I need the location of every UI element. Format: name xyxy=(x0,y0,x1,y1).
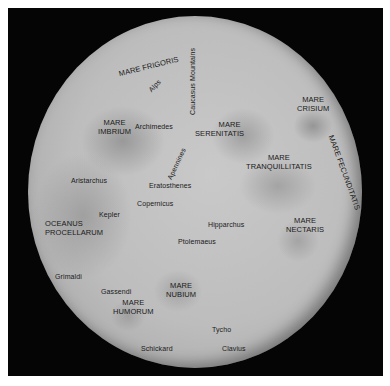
label-aristarchus: Aristarchus xyxy=(71,177,107,185)
mare-humorum-line-1: MARE xyxy=(113,298,154,307)
mare-serenitatis-line-1: MARE xyxy=(195,120,244,129)
mare-serenitatis-line-2: SERENITATIS xyxy=(195,129,244,138)
label-mare-serenitatis: MARE SERENITATIS xyxy=(195,120,244,138)
label-tycho: Tycho xyxy=(212,326,231,334)
label-caucasus-mountains: Caucasus Mountains xyxy=(189,85,197,115)
label-mare-imbrium: MARE IMBRIUM xyxy=(98,118,131,136)
label-hipparchus: Hipparchus xyxy=(208,221,244,229)
mare-imbrium-line-2: IMBRIUM xyxy=(98,127,131,136)
mare-crisium-line-1: MARE xyxy=(297,95,329,104)
mare-imbrium-line-1: MARE xyxy=(98,118,131,127)
oceanus-line-2: PROCELLARUM xyxy=(45,228,103,237)
label-grimaldi: Grimaldi xyxy=(55,273,82,281)
mare-nectaris-line-2: NECTARIS xyxy=(286,225,324,234)
mare-nectaris-line-1: MARE xyxy=(286,216,324,225)
mare-tranquillitatis-line-1: MARE xyxy=(246,153,312,162)
label-mare-nubium: MARE NUBIUM xyxy=(166,281,196,299)
label-clavius: Clavius xyxy=(222,345,246,353)
label-kepler: Kepler xyxy=(99,211,120,219)
mare-humorum-line-2: HUMORUM xyxy=(113,307,154,316)
mare-nubium-line-2: NUBIUM xyxy=(166,290,196,299)
label-ptolemaeus: Ptolemaeus xyxy=(178,238,216,246)
label-eratosthenes: Eratosthenes xyxy=(149,182,191,190)
label-schickard: Schickard xyxy=(141,345,173,353)
label-mare-tranquillitatis: MARE TRANQUILLITATIS xyxy=(246,153,312,171)
mare-tranquillitatis-line-2: TRANQUILLITATIS xyxy=(246,162,312,171)
mare-nubium-line-1: MARE xyxy=(166,281,196,290)
mare-crisium-line-2: CRISIUM xyxy=(297,104,329,113)
oceanus-line-1: OCEANUS xyxy=(45,219,103,228)
label-mare-nectaris: MARE NECTARIS xyxy=(286,216,324,234)
label-oceanus-procellarum: OCEANUS PROCELLARUM xyxy=(45,219,103,237)
label-gassendi: Gassendi xyxy=(101,288,131,296)
label-archimedes: Archimedes xyxy=(135,123,173,131)
caucasus-line-1: Caucasus Mountains xyxy=(189,85,197,115)
label-copernicus: Copernicus xyxy=(137,200,173,208)
label-mare-humorum: MARE HUMORUM xyxy=(113,298,154,316)
label-mare-crisium: MARE CRISIUM xyxy=(297,95,329,113)
